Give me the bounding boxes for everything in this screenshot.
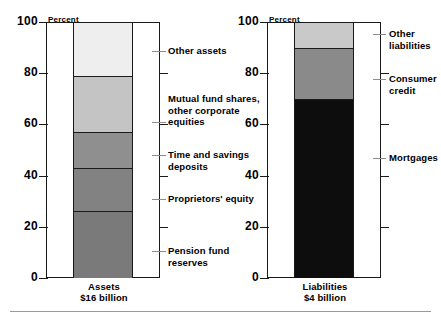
liabilities-plot-panel — [267, 22, 381, 278]
y-rtick-liabilities-60 — [380, 124, 389, 125]
y-tick-label-assets-60: 60 — [6, 117, 38, 129]
liabilities-caption-line1: Liabilities — [303, 281, 348, 292]
y-tick-assets-0 — [39, 278, 48, 279]
assets-caption-line2: $16 billion — [48, 292, 160, 303]
bar-segment-proprietors-equity — [74, 168, 132, 211]
assets-caption-line1: Assets — [88, 281, 120, 292]
bar-segment-mortgages — [295, 99, 353, 278]
y-rtick-assets-80 — [159, 73, 168, 74]
leader-line-proprietors-equity — [152, 199, 166, 200]
y-rtick-liabilities-80 — [380, 73, 389, 74]
bar-segment-other-assets — [74, 22, 132, 76]
y-rtick-assets-20 — [159, 227, 168, 228]
leader-line-mortgages — [373, 158, 386, 159]
y-tick-label-assets-80: 80 — [6, 66, 38, 78]
y-rtick-liabilities-20 — [380, 227, 389, 228]
y-tick-label-assets-100: 100 — [6, 15, 38, 27]
bar-segment-time-and-savings-deposits — [74, 132, 132, 168]
leader-line-time-and-savings-deposits — [152, 155, 166, 156]
y-tick-label-liabilities-20: 20 — [227, 220, 259, 232]
callout-consumer-credit: Consumer credit — [389, 73, 441, 96]
y-tick-label-liabilities-80: 80 — [227, 66, 259, 78]
callout-pension-fund-reserves: Pension fund reserves — [168, 245, 258, 268]
bar-segment-mutual-fund-shares — [74, 76, 132, 132]
y-tick-label-liabilities-60: 60 — [227, 117, 259, 129]
leader-line-pension-fund-reserves — [152, 251, 166, 252]
assets-stacked-bar — [73, 22, 133, 278]
leader-line-other-liabilities — [373, 34, 386, 35]
y-rtick-assets-40 — [159, 176, 168, 177]
assets-plot-panel — [46, 22, 160, 278]
leader-line-other-assets — [152, 51, 166, 52]
y-tick-label-liabilities-40: 40 — [227, 169, 259, 181]
callout-proprietors-equity: Proprietors' equity — [168, 193, 263, 205]
bar-segment-other-liabilities — [295, 22, 353, 48]
assets-bar-caption: Assets $16 billion — [48, 281, 160, 303]
y-tick-label-assets-0: 0 — [6, 271, 38, 283]
stacked-bar-figure: Percent 100 80 60 40 20 0 A — [0, 0, 441, 323]
y-tick-label-liabilities-100: 100 — [227, 15, 259, 27]
liabilities-stacked-bar — [294, 22, 354, 278]
y-tick-label-assets-40: 40 — [6, 169, 38, 181]
bar-segment-consumer-credit — [295, 48, 353, 99]
y-rtick-liabilities-40 — [380, 176, 389, 177]
liabilities-bar-caption: Liabilities $4 billion — [269, 281, 381, 303]
callout-other-assets: Other assets — [168, 45, 258, 57]
leader-line-consumer-credit — [373, 79, 386, 80]
bottom-rule-divider — [10, 311, 431, 312]
y-tick-label-assets-20: 20 — [6, 220, 38, 232]
y-rtick-assets-60 — [159, 124, 168, 125]
liabilities-caption-line2: $4 billion — [269, 292, 381, 303]
bar-segment-pension-fund-reserves — [74, 211, 132, 278]
callout-mortgages: Mortgages — [389, 152, 441, 164]
callout-other-liabilities: Other liabilities — [389, 28, 441, 51]
leader-line-mutual-fund-shares — [152, 122, 166, 123]
y-tick-liabilities-0 — [260, 278, 269, 279]
y-tick-label-liabilities-0: 0 — [227, 271, 259, 283]
